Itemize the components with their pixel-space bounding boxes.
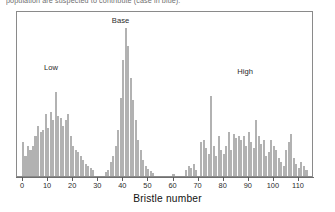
x-tick-label: 100 xyxy=(267,181,279,190)
histogram-bar xyxy=(195,170,197,176)
cluster-label-high: High xyxy=(237,67,253,76)
x-tick-label: 50 xyxy=(143,181,151,190)
x-tick-label: 40 xyxy=(118,181,126,190)
x-tick-label: 20 xyxy=(68,181,76,190)
x-tick-label: 110 xyxy=(292,181,304,190)
histogram-bar xyxy=(92,170,94,176)
histogram-plot-area: LowBaseHigh xyxy=(16,11,313,177)
figure-caption: population are suspected to contribute (… xyxy=(6,0,306,5)
x-tick-label: 90 xyxy=(244,181,252,190)
x-tick-label: 60 xyxy=(168,181,176,190)
cluster-label-base: Base xyxy=(112,16,129,25)
x-tick-label: 80 xyxy=(219,181,227,190)
histogram-bar xyxy=(305,170,307,176)
x-axis-line xyxy=(16,177,314,178)
cluster-label-low: Low xyxy=(44,63,58,72)
x-tick-label: 10 xyxy=(43,181,51,190)
histogram-bar xyxy=(172,174,174,176)
x-axis-title: Bristle number xyxy=(0,193,335,204)
x-tick-label: 70 xyxy=(194,181,202,190)
histogram-bars xyxy=(17,12,312,176)
x-tick-label: 30 xyxy=(93,181,101,190)
x-tick-label: 0 xyxy=(20,181,24,190)
histogram-bar xyxy=(152,173,154,176)
